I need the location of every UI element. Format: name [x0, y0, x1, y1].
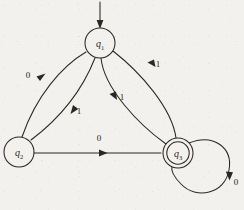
transition-q1-q3 [101, 58, 166, 144]
state-q3[interactable]: q3 [163, 138, 193, 168]
state-diagram-figure: q1 q2 q3 0 1 1 1 0 0 [0, 0, 244, 210]
edge-label-q2-q1: 1 [77, 106, 82, 116]
edge-label-q3-self: 0 [234, 177, 239, 187]
transition-q1-q2 [22, 52, 86, 137]
arrowhead-q1-q3 [110, 92, 118, 101]
edge-label-q1-q2: 0 [26, 70, 31, 80]
arrowhead-q2-q3 [99, 150, 108, 157]
state-q2[interactable]: q2 [4, 137, 34, 167]
start-arrow [97, 2, 104, 29]
state-q1[interactable]: q1 [85, 28, 115, 58]
edge-label-q2-q3: 0 [97, 133, 102, 143]
state-diagram-canvas: q1 q2 q3 0 1 1 1 0 0 [0, 0, 244, 210]
edge-label-q1-q3: 1 [120, 92, 125, 102]
transition-q2-q3 [34, 150, 161, 157]
edge-label-q3-q1: 1 [156, 59, 161, 69]
arrowhead-q3-q1 [148, 60, 156, 68]
arrowhead-q1-q2 [37, 74, 46, 82]
